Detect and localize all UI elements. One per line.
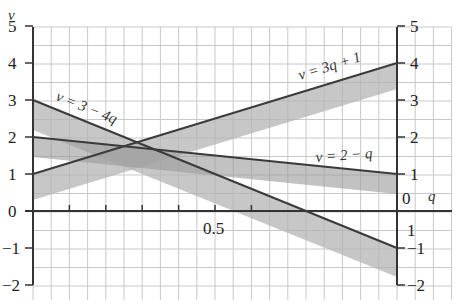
left-tick-labels: 543210−1−2 xyxy=(2,17,20,295)
svg-text:5: 5 xyxy=(410,17,419,36)
svg-text:2: 2 xyxy=(8,128,17,147)
svg-text:0: 0 xyxy=(8,202,17,221)
svg-text:4: 4 xyxy=(410,54,419,73)
q-axis-label: q xyxy=(428,188,436,204)
svg-text:1: 1 xyxy=(8,165,17,184)
svg-text:3: 3 xyxy=(410,91,419,110)
right-zero-label: 0 xyxy=(402,189,411,208)
v-axis-label: v xyxy=(8,7,15,23)
svg-text:2: 2 xyxy=(410,128,419,147)
svg-text:−1: −1 xyxy=(407,239,425,258)
svg-text:3: 3 xyxy=(8,91,17,110)
chart: 543210−1−2 54321−1−21 v q 0 0.5 v = 3q +… xyxy=(0,0,456,305)
svg-text:−2: −2 xyxy=(407,276,425,295)
svg-text:−1: −1 xyxy=(2,239,20,258)
svg-text:−2: −2 xyxy=(2,276,20,295)
svg-text:1: 1 xyxy=(410,165,419,184)
x-tick-label: 0.5 xyxy=(203,219,224,238)
label-2-minus-q: v = 2 − q xyxy=(315,145,373,165)
svg-text:4: 4 xyxy=(8,54,17,73)
svg-text:1: 1 xyxy=(407,221,416,240)
